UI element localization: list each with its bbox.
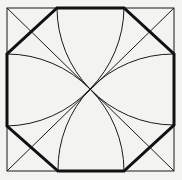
arc-center-to-bottom-left xyxy=(58,89,90,171)
arc-top-right-to-center xyxy=(90,8,124,89)
arc-center-to-bottom-right xyxy=(90,89,124,171)
diagram-canvas xyxy=(0,0,182,180)
arc-right-upper-to-center xyxy=(90,54,174,89)
arc-top-left-to-center xyxy=(57,8,90,89)
arc-center-to-right-lower xyxy=(90,89,174,125)
arc-left-upper-to-center xyxy=(7,54,90,89)
arc-center-to-left-lower xyxy=(7,89,90,126)
octagon-construction-figure xyxy=(0,0,182,180)
